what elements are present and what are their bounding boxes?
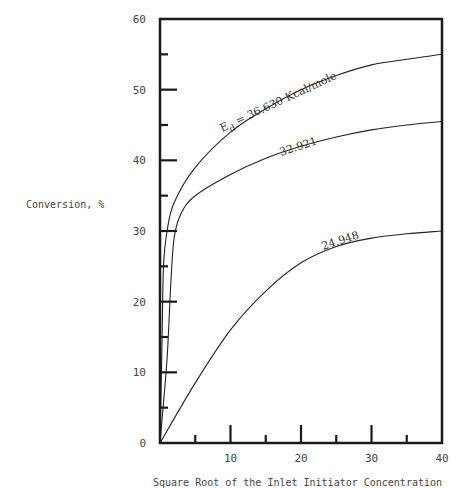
curve-36630 <box>160 54 442 443</box>
axis-ticks <box>160 54 407 443</box>
plot-frame <box>160 19 442 443</box>
curve-label-24948: 24.948 <box>320 229 361 253</box>
y-tick-label: 20 <box>133 296 146 309</box>
x-axis-label: Square Root of the Inlet Initiator Conce… <box>153 477 442 488</box>
curve-label-36630: Ed = 36.630 Kcal/mole <box>218 69 340 137</box>
x-tick-label: 40 <box>435 452 448 465</box>
x-tick-label: 10 <box>224 452 237 465</box>
curves <box>160 54 442 443</box>
y-tick-label: 60 <box>133 13 146 26</box>
curve-24948 <box>160 231 442 443</box>
y-tick-label: 30 <box>133 225 146 238</box>
x-tick-label: 20 <box>294 452 307 465</box>
x-tick-label: 30 <box>365 452 378 465</box>
x-axis-tick-labels: 10203040 <box>224 452 449 465</box>
curve-label-32921: 32.921 <box>278 135 319 159</box>
y-tick-label: 10 <box>133 366 146 379</box>
curve-32921 <box>160 122 442 444</box>
y-tick-label: 40 <box>133 154 146 167</box>
y-axis-tick-labels: 0102030405060 <box>133 13 146 450</box>
y-tick-label: 0 <box>139 437 146 450</box>
y-axis-label: Conversion, % <box>26 199 104 210</box>
y-tick-label: 50 <box>133 84 146 97</box>
chart: 0102030405060 10203040 Conversion, % Squ… <box>0 0 471 488</box>
